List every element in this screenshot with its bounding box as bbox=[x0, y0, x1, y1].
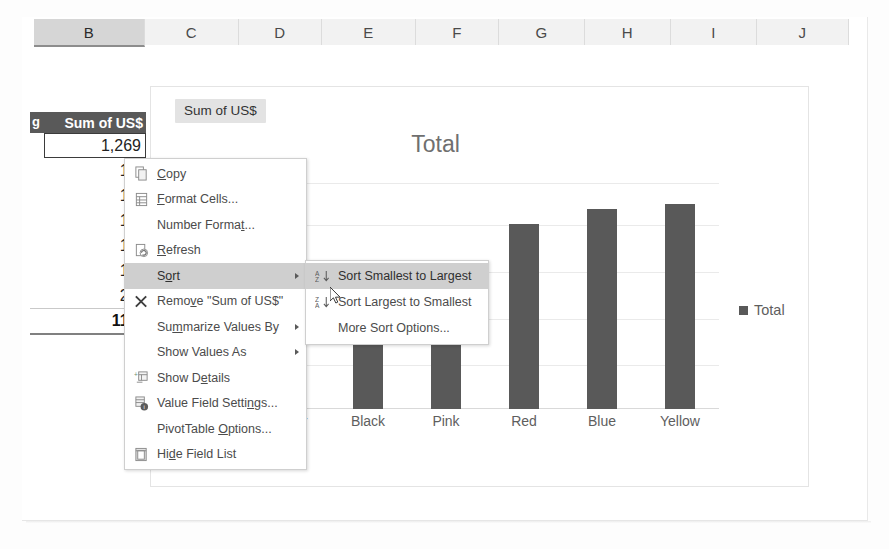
chart-bar[interactable] bbox=[665, 204, 695, 409]
chart-category-label: Blue bbox=[563, 413, 641, 435]
submenu-item-label: Sort Smallest to Largest bbox=[334, 269, 471, 283]
chart-field-button[interactable]: Sum of US$ bbox=[175, 99, 266, 123]
column-header-f[interactable]: F bbox=[416, 19, 499, 45]
column-header-row: BCDEFGHIJ bbox=[34, 19, 840, 45]
hide-field-list-icon bbox=[129, 445, 153, 463]
format-cells-icon bbox=[129, 190, 153, 208]
copy-icon bbox=[134, 166, 149, 181]
chart-bar[interactable] bbox=[587, 209, 617, 409]
pivot-context-menu[interactable]: CopyFormat Cells...Number Format...Refre… bbox=[124, 158, 307, 470]
menu-item-value-field-settings[interactable]: iValue Field Settings... bbox=[125, 391, 306, 417]
worksheet-surface: BCDEFGHIJ g Sum of US$ 1,2691,21,41,51,8… bbox=[0, 0, 889, 549]
refresh-icon bbox=[129, 241, 153, 259]
submenu-arrow-icon bbox=[295, 349, 299, 355]
sort-asc-icon: AZ bbox=[310, 267, 334, 285]
column-header-i[interactable]: I bbox=[671, 19, 757, 45]
chart-title[interactable]: Total bbox=[151, 131, 720, 158]
menu-item-label: Number Format... bbox=[153, 218, 255, 232]
column-header-g[interactable]: G bbox=[499, 19, 585, 45]
sort-desc-icon: ZA bbox=[315, 295, 330, 310]
chart-category-label: Red bbox=[485, 413, 563, 435]
menu-item-number-format[interactable]: Number Format... bbox=[125, 212, 306, 238]
chart-bar-slot bbox=[641, 183, 719, 409]
value-field-settings-icon: i bbox=[134, 396, 149, 411]
submenu-item-label: More Sort Options... bbox=[334, 321, 450, 335]
show-details-icon: + bbox=[134, 370, 149, 385]
menu-item-label: Remove "Sum of US$" bbox=[153, 294, 283, 308]
pivot-value-header: g Sum of US$ bbox=[30, 112, 146, 133]
column-header-b[interactable]: B bbox=[34, 19, 145, 47]
no-icon bbox=[129, 343, 153, 361]
column-header-j[interactable]: J bbox=[757, 19, 849, 45]
svg-text:+: + bbox=[134, 371, 138, 378]
menu-item-label: Value Field Settings... bbox=[153, 396, 278, 410]
svg-text:i: i bbox=[143, 404, 144, 410]
menu-item-show-details[interactable]: +Show Details bbox=[125, 365, 306, 391]
submenu-arrow-icon bbox=[295, 324, 299, 330]
menu-item-show-values-as[interactable]: Show Values As bbox=[125, 340, 306, 366]
legend-swatch-icon bbox=[739, 306, 748, 315]
menu-item-summarize-values-by[interactable]: Summarize Values By bbox=[125, 314, 306, 340]
legend-label: Total bbox=[754, 302, 785, 318]
menu-item-remove-sum-of-us[interactable]: Remove "Sum of US$" bbox=[125, 289, 306, 315]
menu-item-refresh[interactable]: Refresh bbox=[125, 238, 306, 264]
refresh-icon bbox=[134, 243, 149, 258]
menu-item-hide-field-list[interactable]: Hide Field List bbox=[125, 442, 306, 468]
column-header-d[interactable]: D bbox=[239, 19, 322, 45]
no-icon bbox=[129, 216, 153, 234]
chart-category-label: Black bbox=[329, 413, 407, 435]
pivot-value-cell[interactable]: 1,269 bbox=[44, 133, 146, 158]
remove-x-icon bbox=[129, 292, 153, 310]
sort-asc-icon: AZ bbox=[315, 269, 330, 284]
mouse-cursor-icon bbox=[330, 287, 342, 305]
chart-bar-slot bbox=[563, 183, 641, 409]
menu-item-label: Format Cells... bbox=[153, 192, 238, 206]
column-header-e[interactable]: E bbox=[322, 19, 416, 45]
column-header-h[interactable]: H bbox=[585, 19, 671, 45]
format-cells-icon bbox=[134, 192, 149, 207]
submenu-item-more-sort-options[interactable]: More Sort Options... bbox=[306, 315, 488, 341]
column-header-c[interactable]: C bbox=[145, 19, 239, 45]
menu-item-label: Summarize Values By bbox=[153, 320, 279, 334]
svg-text:Z: Z bbox=[315, 276, 319, 283]
menu-item-pivottable-options[interactable]: PivotTable Options... bbox=[125, 416, 306, 442]
submenu-item-label: Sort Largest to Smallest bbox=[334, 295, 471, 309]
no-icon bbox=[310, 319, 334, 337]
menu-item-label: Hide Field List bbox=[153, 447, 236, 461]
pivot-value-header-label: Sum of US$ bbox=[64, 115, 143, 131]
pivot-row-label-partial: g bbox=[32, 114, 40, 129]
submenu-arrow-icon bbox=[295, 273, 299, 279]
chart-legend[interactable]: Total bbox=[739, 302, 785, 318]
submenu-item-sort-smallest-to-largest[interactable]: AZSort Smallest to Largest bbox=[306, 263, 488, 289]
menu-item-label: Show Details bbox=[153, 371, 230, 385]
menu-item-label: PivotTable Options... bbox=[153, 422, 272, 436]
menu-item-label: Copy bbox=[153, 167, 186, 181]
svg-text:A: A bbox=[315, 302, 320, 309]
no-icon bbox=[129, 267, 153, 285]
menu-item-label: Sort bbox=[153, 269, 180, 283]
sheet-shadow bbox=[26, 521, 871, 523]
chart-bar[interactable] bbox=[509, 224, 539, 409]
menu-item-copy[interactable]: Copy bbox=[125, 161, 306, 187]
no-icon bbox=[129, 420, 153, 438]
chart-category-label: Pink bbox=[407, 413, 485, 435]
menu-item-sort[interactable]: Sort bbox=[125, 263, 306, 289]
chart-category-label: Yellow bbox=[641, 413, 719, 435]
chart-bar-slot bbox=[485, 183, 563, 409]
remove-x-icon bbox=[134, 294, 149, 309]
hide-field-list-icon bbox=[134, 447, 149, 462]
copy-icon bbox=[129, 165, 153, 183]
menu-item-label: Show Values As bbox=[153, 345, 246, 359]
value-field-settings-icon: i bbox=[129, 394, 153, 412]
no-icon bbox=[129, 318, 153, 336]
menu-item-label: Refresh bbox=[153, 243, 201, 257]
menu-item-format-cells[interactable]: Format Cells... bbox=[125, 187, 306, 213]
show-details-icon: + bbox=[129, 369, 153, 387]
